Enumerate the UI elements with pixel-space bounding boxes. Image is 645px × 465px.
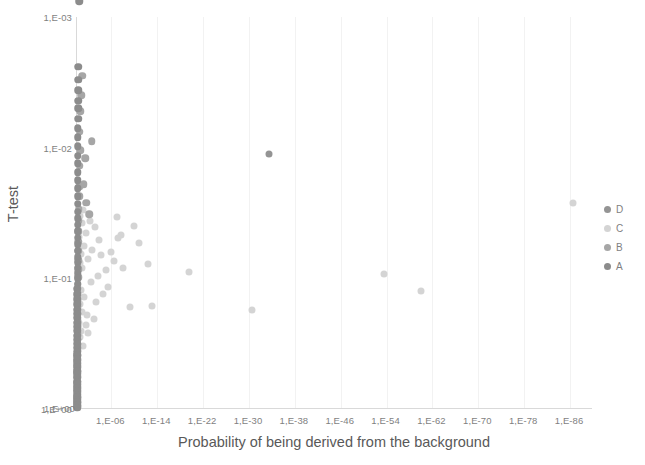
data-point <box>74 200 82 208</box>
x-tick-label: 1,E-78 <box>509 415 538 426</box>
data-point <box>86 217 93 224</box>
x-tick-label: 1,E-54 <box>371 415 400 426</box>
data-point <box>107 249 114 256</box>
data-point <box>380 271 387 278</box>
legend-item-b[interactable]: B <box>604 238 644 257</box>
y-tick-label: 1,E-02 <box>2 142 72 153</box>
data-point <box>126 304 133 311</box>
legend-item-label: A <box>616 262 623 272</box>
data-point <box>85 211 93 219</box>
legend-item-label: C <box>616 224 623 234</box>
gridline-vertical <box>524 17 525 408</box>
data-point <box>418 288 425 295</box>
data-point <box>75 76 83 84</box>
data-point <box>74 192 82 200</box>
data-point <box>144 260 151 267</box>
data-point <box>113 213 120 220</box>
data-point <box>74 124 82 132</box>
data-point <box>135 240 142 247</box>
gridline-vertical <box>157 17 158 408</box>
data-point <box>88 137 96 145</box>
x-tick-label: 1,E-22 <box>188 415 217 426</box>
data-point <box>75 0 83 5</box>
x-tick-label: 1,E-46 <box>325 415 354 426</box>
gridline-vertical <box>478 17 479 408</box>
data-point <box>84 255 91 262</box>
data-point <box>75 86 83 94</box>
data-point <box>74 97 82 105</box>
x-tick-label: 1,E-86 <box>555 415 584 426</box>
data-point <box>248 306 255 313</box>
data-point <box>74 177 82 185</box>
data-point <box>185 268 192 275</box>
data-point <box>110 258 117 265</box>
data-point <box>74 105 82 113</box>
x-tick-label: 1,E-06 <box>96 415 125 426</box>
data-point <box>569 199 576 206</box>
legend-swatch-icon <box>604 225 611 232</box>
data-point <box>120 264 127 271</box>
legend-item-d[interactable]: D <box>604 200 644 219</box>
data-point <box>104 284 111 291</box>
data-point <box>74 152 82 160</box>
legend: DCBA <box>604 200 644 276</box>
data-point <box>74 169 82 177</box>
gridline-vertical <box>432 17 433 408</box>
legend-swatch-icon <box>604 263 611 270</box>
data-point <box>91 224 98 231</box>
y-axis-title: T-test <box>5 169 21 239</box>
legend-swatch-icon <box>604 206 611 213</box>
data-point <box>266 151 273 158</box>
x-tick-label: 1,E-62 <box>417 415 446 426</box>
x-tick-label: 1,E-14 <box>142 415 171 426</box>
plot-area <box>76 17 592 409</box>
x-axis-tick-labels: 1,E-061,E-141,E-221,E-301,E-381,E-461,E-… <box>76 415 592 431</box>
data-point <box>114 234 121 241</box>
gridline-vertical <box>203 17 204 408</box>
data-point <box>148 302 155 309</box>
legend-item-label: D <box>616 205 623 215</box>
x-axis-title: Probability of being derived from the ba… <box>76 434 592 450</box>
legend-item-a[interactable]: A <box>604 257 644 276</box>
legend-swatch-icon <box>604 244 611 251</box>
gridline-vertical <box>570 17 571 408</box>
x-tick-label: 1,E-70 <box>463 415 492 426</box>
data-point <box>82 154 90 162</box>
y-tick-label: 1,E-03 <box>2 12 72 23</box>
data-point <box>90 315 97 322</box>
data-point <box>94 272 101 279</box>
data-point <box>88 246 95 253</box>
scatter-chart: 1,E-031,E-021,E-011,E+00 1,E-061,E-141,E… <box>0 0 645 465</box>
data-point <box>102 267 109 274</box>
gridline-vertical <box>249 17 250 408</box>
data-point <box>83 229 90 236</box>
x-tick-label: 1,E-30 <box>234 415 263 426</box>
data-point <box>85 330 92 337</box>
data-point <box>92 298 99 305</box>
data-point <box>74 115 82 123</box>
x-tick-label: 1,E-38 <box>280 415 309 426</box>
data-point <box>98 251 105 258</box>
gridline-vertical <box>295 17 296 408</box>
y-tick-label: 1,E-01 <box>2 273 72 284</box>
legend-item-label: B <box>616 243 623 253</box>
data-point <box>74 133 82 141</box>
legend-item-c[interactable]: C <box>604 219 644 238</box>
data-point <box>74 184 82 192</box>
data-point <box>130 223 137 230</box>
x-tick-label: 1,E+00 <box>44 403 75 414</box>
gridline-vertical <box>111 17 112 408</box>
data-point <box>74 160 82 168</box>
data-point <box>96 237 103 244</box>
data-point <box>82 199 90 207</box>
gridline-vertical <box>341 17 342 408</box>
data-point <box>75 63 83 71</box>
data-point <box>100 291 107 298</box>
data-point <box>87 279 94 286</box>
data-point <box>74 143 82 151</box>
gridline-vertical <box>387 17 388 408</box>
